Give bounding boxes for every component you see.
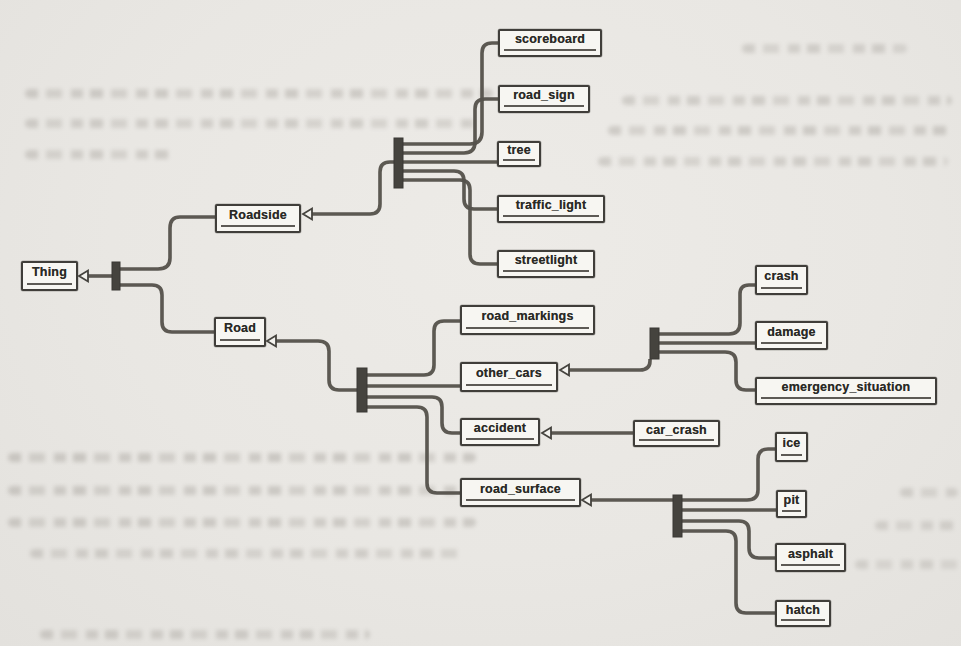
node-streetlight-label: streetlight (515, 254, 578, 267)
node-road_sign: road_sign (498, 85, 590, 113)
node-ice-label: ice (783, 437, 801, 450)
junction-bar-other_cars-children (650, 328, 659, 359)
node-tree: tree (497, 141, 541, 167)
node-damage: damage (755, 321, 828, 350)
isa-arrowhead-accident-icon (542, 428, 551, 439)
edge-road_surface-to-road (367, 407, 460, 493)
node-thing-label: Thing (32, 266, 67, 279)
edge-hatch-to-road_surface (682, 531, 775, 613)
node-damage-label: damage (767, 326, 815, 339)
node-crash: crash (755, 265, 808, 295)
node-underline (503, 270, 589, 272)
node-underline (503, 215, 599, 217)
node-underline (503, 159, 535, 161)
junction-bar-roadside-children (394, 138, 403, 188)
node-underline (761, 287, 802, 289)
node-underline (781, 564, 840, 566)
node-scoreboard: scoreboard (498, 29, 602, 57)
node-underline (781, 454, 802, 456)
node-roadside: Roadside (215, 204, 301, 233)
node-ice: ice (775, 432, 808, 462)
node-car_crash: car_crash (633, 420, 720, 447)
node-pit: pit (776, 490, 807, 518)
node-hatch: hatch (775, 600, 831, 627)
edge-emergency_situation-to-other_cars (659, 352, 755, 390)
isa-arrowhead-road-icon (267, 336, 276, 347)
node-road_sign-label: road_sign (513, 89, 575, 102)
node-pit-label: pit (784, 494, 800, 507)
junction-bar-road_surface-children (673, 495, 682, 537)
node-asphalt-label: asphalt (788, 548, 833, 561)
node-tree-label: tree (507, 144, 531, 157)
node-underline (27, 283, 72, 285)
node-traffic_light: traffic_light (497, 195, 605, 223)
node-other_cars: other_cars (460, 362, 558, 392)
node-underline (466, 438, 534, 440)
node-road_surface: road_surface (460, 478, 581, 507)
edge-road_markings-to-road (367, 321, 460, 375)
scanned-page: Thing Roadside Road scoreboard road_sign… (0, 0, 961, 646)
node-underline (220, 339, 260, 341)
node-asphalt: asphalt (775, 543, 846, 572)
edge-roadside-to-thing (120, 217, 215, 269)
node-road_markings: road_markings (460, 305, 595, 335)
node-streetlight: streetlight (497, 250, 595, 278)
node-other_cars-label: other_cars (476, 367, 542, 380)
edge-junction-to-roadside (312, 162, 394, 214)
edge-streetlight-to-roadside (403, 180, 497, 264)
isa-arrowhead-roadside-icon (303, 209, 312, 220)
edge-junction-to-road (276, 341, 357, 390)
node-underline (466, 327, 589, 329)
junction-bar-road-children (357, 368, 367, 412)
node-road_surface-label: road_surface (480, 483, 561, 496)
node-underline (466, 499, 575, 501)
isa-arrowhead-thing-icon (79, 271, 88, 282)
node-crash-label: crash (764, 270, 798, 283)
edge-ice-to-road_surface (682, 449, 775, 500)
edge-accident-to-road (367, 397, 460, 433)
node-road: Road (214, 317, 266, 347)
edge-crash-to-other_cars (659, 285, 755, 334)
edge-traffic_light-to-roadside (403, 171, 497, 209)
node-underline (221, 225, 295, 227)
node-hatch-label: hatch (786, 604, 820, 617)
node-accident: accident (460, 418, 540, 446)
node-underline (761, 397, 931, 399)
node-scoreboard-label: scoreboard (515, 33, 585, 46)
node-emergency_situation: emergency_situation (755, 377, 937, 405)
isa-arrowhead-other_cars-icon (560, 365, 569, 376)
isa-arrowhead-road_surface-icon (582, 495, 591, 506)
node-car_crash-label: car_crash (646, 424, 707, 437)
node-road-label: Road (224, 322, 256, 335)
node-underline (466, 384, 552, 386)
edge-junction-to-other_cars (569, 359, 650, 370)
node-underline (782, 510, 801, 512)
node-underline (504, 49, 596, 51)
node-emergency_situation-label: emergency_situation (782, 381, 911, 394)
junction-bar-thing-children (112, 262, 120, 290)
node-accident-label: accident (474, 422, 526, 435)
edge-scoreboard-to-roadside (403, 43, 498, 144)
node-underline (781, 619, 825, 621)
edge-road-to-thing (120, 285, 214, 332)
edge-asphalt-to-road_surface (682, 521, 775, 558)
node-thing: Thing (21, 261, 78, 291)
node-roadside-label: Roadside (229, 209, 287, 222)
node-traffic_light-label: traffic_light (516, 199, 587, 212)
node-road_markings-label: road_markings (481, 310, 573, 323)
node-underline (761, 342, 822, 344)
node-underline (639, 439, 714, 441)
node-underline (504, 105, 584, 107)
